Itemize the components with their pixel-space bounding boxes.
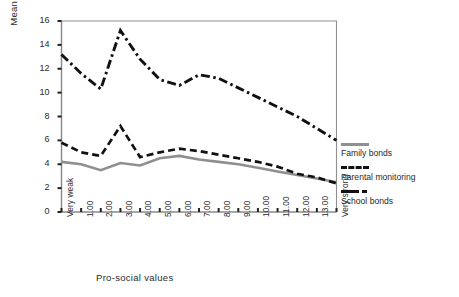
y-axis-tick-label: 4 [32,158,50,168]
y-axis-tick-label: 8 [32,111,50,121]
x-axis-tick-label: 4.00 [143,200,153,217]
x-axis-tick-label: 11.00 [281,196,291,217]
x-axis-tick-label: 8.00 [222,200,232,217]
x-axis-tick-label: 3.00 [124,200,134,217]
legend-swatch-family-bonds [341,143,369,146]
x-axis-tick-label: 10.00 [261,196,271,217]
y-axis-tick-label: 6 [32,134,50,144]
y-axis-tick-label: 14 [32,39,50,49]
y-axis-tick-label: 2 [32,182,50,192]
y-axis-tick-label: 16 [32,15,50,25]
series-line-family-bonds [62,156,337,182]
x-axis-tick-label: 6.00 [183,200,193,217]
x-axis-tick-label: Very weak [65,178,75,217]
legend-swatch-school-bonds [341,190,359,193]
x-axis-tick-label: 12.00 [301,196,311,217]
x-axis-tick-label: 2.00 [104,200,114,217]
x-axis-tick-label: 7.00 [202,200,212,217]
legend-item-school-bonds: School bonds [341,188,459,212]
legend-label-school-bonds: School bonds [341,196,393,206]
legend-item-family-bonds: Family bonds [341,140,459,164]
chart-figure: Mean scores for monitoring and bonds Pro… [0,0,459,297]
y-axis-tick-label: 10 [32,87,50,97]
legend-item-parental-monitoring: Parental monitoring [341,164,459,188]
legend-label-family-bonds: Family bonds [341,148,392,158]
legend-swatch-parental-monitoring [341,166,369,169]
x-axis-tick-label: 9.00 [242,200,252,217]
series-line-school-bonds [62,31,337,141]
legend-label-parental-monitoring: Parental monitoring [341,172,416,182]
chart-legend: Family bonds Parental monitoring School … [341,140,459,212]
plot-frame [62,21,337,212]
x-axis-tick-label: 1.00 [85,200,95,217]
x-axis-tick-label: 5.00 [163,200,173,217]
x-axis-tick-label: 13.00 [320,196,330,217]
y-axis-tick-label: 0 [32,206,50,216]
y-axis-tick-label: 12 [32,63,50,73]
